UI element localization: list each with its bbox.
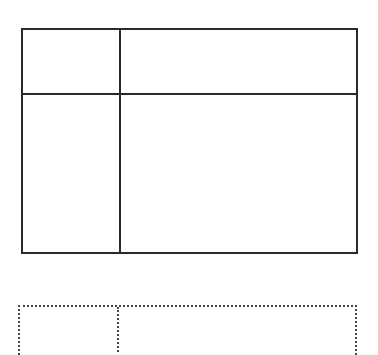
dotted-grid-frame	[18, 305, 357, 355]
dotted-grid-vertical-divider	[117, 307, 119, 352]
solid-grid-frame	[21, 28, 358, 254]
solid-grid-horizontal-divider	[21, 93, 358, 95]
solid-grid-vertical-divider	[119, 28, 121, 254]
